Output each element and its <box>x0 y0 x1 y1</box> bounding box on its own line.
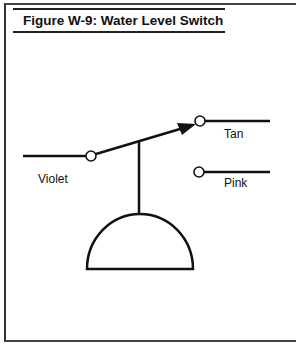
pink-terminal-icon <box>194 167 204 177</box>
label-pink: Pink <box>224 176 247 190</box>
label-tan: Tan <box>224 127 243 141</box>
tan-terminal-icon <box>195 116 205 126</box>
switch-arrow-icon <box>177 123 196 135</box>
common-terminal-icon <box>86 151 96 161</box>
float-dome-icon <box>87 214 193 269</box>
label-violet: Violet <box>38 172 68 186</box>
